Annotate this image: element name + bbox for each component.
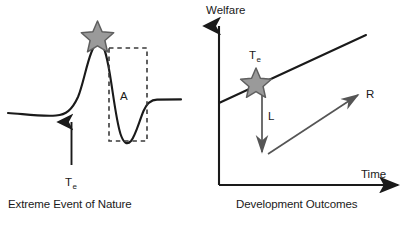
right-panel-group: Welfare Time L R T e (206, 4, 398, 185)
amplitude-label: A (120, 90, 128, 102)
x-axis-label: Time (361, 168, 386, 180)
left-panel-caption: Extreme Event of Nature (8, 198, 132, 210)
figure-container: A T e Welfare Time L (0, 0, 414, 232)
amplitude-dashed-box (109, 48, 147, 141)
recovery-label: R (366, 88, 374, 100)
event-time-label-right: T (249, 49, 256, 61)
left-panel-group: A T e (8, 21, 181, 191)
event-time-label-right-subscript: e (257, 55, 262, 64)
event-time-label-subscript: e (73, 182, 78, 191)
five-pointed-star-icon-right (241, 68, 272, 97)
hazard-signal-curve (8, 42, 181, 143)
welfare-trend-line (219, 35, 366, 103)
loss-label: L (268, 110, 275, 122)
event-time-label: T (65, 176, 72, 188)
five-pointed-star-icon (81, 21, 113, 52)
right-panel-caption: Development Outcomes (236, 198, 357, 210)
y-axis-label: Welfare (206, 4, 245, 16)
recovery-arrow (268, 95, 358, 154)
